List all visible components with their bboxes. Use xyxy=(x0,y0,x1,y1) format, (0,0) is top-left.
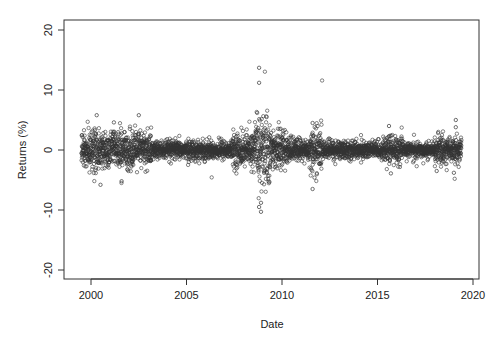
x-tick-label: 2005 xyxy=(174,289,198,301)
x-axis-title: Date xyxy=(260,318,283,330)
data-points xyxy=(80,66,463,213)
y-axis: -20-1001020 xyxy=(42,24,64,278)
y-tick-label: -10 xyxy=(42,202,54,218)
x-tick-label: 2015 xyxy=(365,289,389,301)
y-tick-label: 10 xyxy=(42,84,54,96)
returns-scatter-chart: 20002005201020152020 -20-1001020 Date Re… xyxy=(0,0,500,340)
x-tick-label: 2020 xyxy=(461,289,485,301)
y-tick-label: -20 xyxy=(42,262,54,278)
x-tick-label: 2010 xyxy=(270,289,294,301)
x-tick-label: 2000 xyxy=(79,289,103,301)
y-axis-title: Returns (%) xyxy=(16,121,28,180)
y-tick-label: 0 xyxy=(42,147,54,153)
x-axis: 20002005201020152020 xyxy=(79,279,485,301)
y-tick-label: 20 xyxy=(42,24,54,36)
